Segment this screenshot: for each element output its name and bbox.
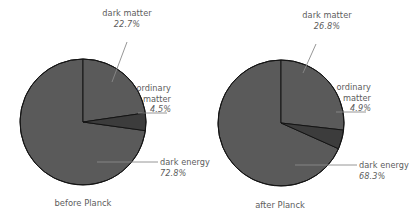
label-ordinary-matter-right-pct: 4.9% xyxy=(312,103,371,114)
label-dark-energy-right-name: dark energy xyxy=(359,160,409,170)
label-dark-matter-right: dark matter 26.8% xyxy=(289,10,365,31)
label-dark-matter-left: dark matter 22.7% xyxy=(88,8,166,29)
caption-after-planck: after Planck xyxy=(240,200,320,210)
pie-chart-after-planck xyxy=(218,44,366,186)
label-ordinary-matter-right-name1: ordinary xyxy=(336,82,371,92)
caption-before-planck: before Planck xyxy=(43,198,123,208)
label-ordinary-matter-left-pct: 4.5% xyxy=(112,104,171,115)
label-ordinary-matter-right-name2: matter xyxy=(312,93,371,104)
label-dark-matter-left-name: dark matter xyxy=(102,8,151,18)
label-dark-energy-left: dark energy 72.8% xyxy=(160,157,222,178)
label-ordinary-matter-left: ordinary matter 4.5% xyxy=(112,83,171,115)
label-dark-matter-right-pct: 26.8% xyxy=(289,21,365,32)
label-dark-matter-right-name: dark matter xyxy=(302,10,351,20)
label-dark-energy-right-pct: 68.3% xyxy=(359,171,419,182)
label-ordinary-matter-left-name2: matter xyxy=(112,94,171,105)
label-ordinary-matter-left-name1: ordinary xyxy=(136,83,171,93)
label-dark-matter-left-pct: 22.7% xyxy=(88,19,166,30)
label-dark-energy-left-name: dark energy xyxy=(160,157,210,167)
label-dark-energy-right: dark energy 68.3% xyxy=(359,160,419,181)
label-dark-energy-left-pct: 72.8% xyxy=(160,168,222,179)
label-ordinary-matter-right: ordinary matter 4.9% xyxy=(312,82,371,114)
